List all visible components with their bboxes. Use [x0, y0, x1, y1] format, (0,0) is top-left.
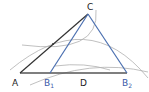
label-b2: B2	[122, 78, 132, 89]
arc-centered-a	[22, 10, 96, 47]
label-d: D	[80, 78, 87, 88]
geometry-diagram: A B1 D B2 C	[0, 0, 149, 92]
line-a-c	[20, 14, 88, 73]
label-a: A	[12, 78, 19, 88]
line-c-b2	[88, 14, 127, 73]
label-b1: B1	[44, 78, 54, 89]
label-c: C	[87, 2, 93, 12]
tick-mark	[52, 43, 54, 45]
